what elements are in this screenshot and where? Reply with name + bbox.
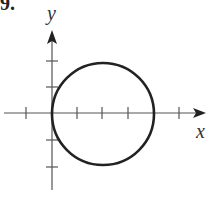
x-axis-label: x — [195, 120, 205, 142]
y-axis-label: y — [45, 2, 56, 25]
circle-curve — [52, 63, 154, 165]
x-axis — [4, 107, 206, 119]
circle-graph: x y — [0, 0, 209, 199]
